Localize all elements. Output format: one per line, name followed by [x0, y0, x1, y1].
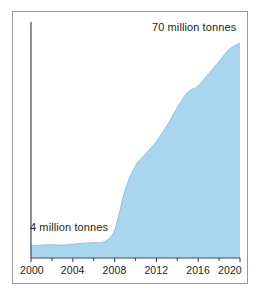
x-axis-tick-label: 2004	[61, 264, 85, 276]
x-axis-tick-label: 2020	[218, 264, 242, 276]
x-axis-tick-label: 2000	[20, 264, 44, 276]
start-value-annotation: 4 million tonnes	[30, 221, 108, 233]
area-chart-svg	[0, 0, 260, 297]
x-axis-tick-label: 2012	[144, 264, 168, 276]
chart-plot-area	[0, 0, 260, 297]
x-axis-tick-label: 2008	[103, 264, 127, 276]
x-axis-tick-label: 2016	[186, 264, 210, 276]
peak-value-annotation: 70 million tonnes	[152, 21, 236, 33]
chart-page: 70 million tonnes 4 million tonnes 20002…	[0, 0, 260, 297]
